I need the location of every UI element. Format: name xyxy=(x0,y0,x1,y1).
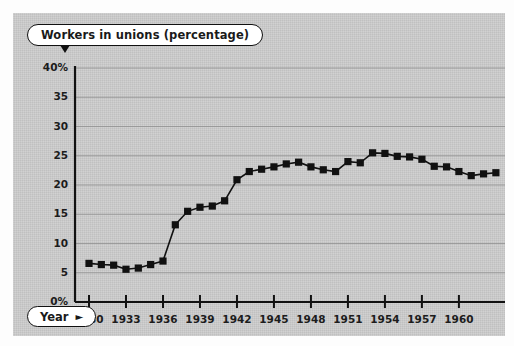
chart-screenshot: 0%510152025303540% 193019331936193919421… xyxy=(0,0,514,346)
data-point-marker xyxy=(369,149,376,156)
data-point-marker xyxy=(135,264,142,271)
data-point-marker xyxy=(221,197,228,204)
data-point-marker xyxy=(455,168,462,175)
data-point-marker xyxy=(196,204,203,211)
data-point-marker xyxy=(492,169,499,176)
data-point-marker xyxy=(122,266,129,273)
data-point-marker xyxy=(283,160,290,167)
data-point-marker xyxy=(480,170,487,177)
data-point-marker xyxy=(246,168,253,175)
gridlines xyxy=(75,68,505,273)
title-pointer-icon xyxy=(60,45,70,53)
data-point-marker xyxy=(159,257,166,264)
data-point-marker xyxy=(270,163,277,170)
data-point-marker xyxy=(431,163,438,170)
data-point-marker xyxy=(147,261,154,268)
x-axis-label-text: Year xyxy=(40,310,69,324)
y-axis-tick-label: 40% xyxy=(43,61,68,73)
y-axis-tick-label: 30 xyxy=(53,120,68,132)
data-point-marker xyxy=(110,262,117,269)
chart-plot-area xyxy=(13,13,505,336)
data-point-marker xyxy=(233,176,240,183)
data-series-line xyxy=(89,153,496,269)
data-point-markers xyxy=(85,149,499,273)
data-point-marker xyxy=(468,172,475,179)
data-point-marker xyxy=(344,158,351,165)
data-point-marker xyxy=(332,168,339,175)
y-axis-tick-label: 25 xyxy=(53,149,68,161)
data-point-marker xyxy=(258,166,265,173)
data-point-marker xyxy=(295,159,302,166)
x-axis-tick-label: 1960 xyxy=(437,313,481,325)
y-axis-tick-label: 5 xyxy=(61,266,68,278)
y-axis-tick-label: 10 xyxy=(53,237,68,249)
data-point-marker xyxy=(443,163,450,170)
data-point-marker xyxy=(85,260,92,267)
data-point-marker xyxy=(394,153,401,160)
chart-title-text: Workers in unions (percentage) xyxy=(41,28,249,42)
data-point-marker xyxy=(172,221,179,228)
data-point-marker xyxy=(357,159,364,166)
chart-panel: 0%510152025303540% 193019331936193919421… xyxy=(13,13,505,336)
data-point-marker xyxy=(381,150,388,157)
data-point-marker xyxy=(406,153,413,160)
y-axis-tick-label: 15 xyxy=(53,207,68,219)
arrow-right-icon: ► xyxy=(76,312,84,322)
data-point-marker xyxy=(418,156,425,163)
data-point-marker xyxy=(98,261,105,268)
data-point-marker xyxy=(320,166,327,173)
data-point-marker xyxy=(307,163,314,170)
x-axis-label-pill: Year ► xyxy=(27,306,96,327)
chart-title-pill: Workers in unions (percentage) xyxy=(27,24,263,46)
y-axis-tick-label: 20 xyxy=(53,178,68,190)
data-point-marker xyxy=(184,208,191,215)
y-axis-tick-label: 35 xyxy=(53,90,68,102)
data-point-marker xyxy=(209,202,216,209)
